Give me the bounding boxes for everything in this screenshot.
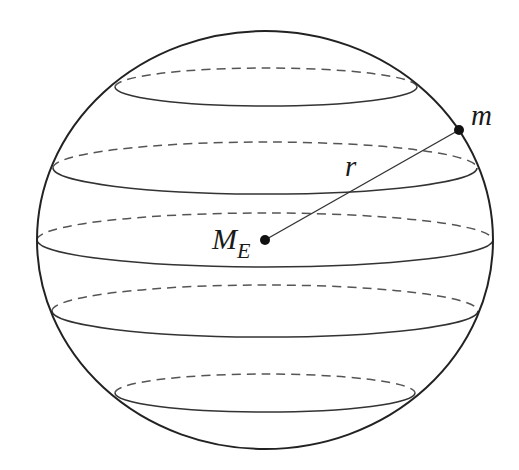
latitude-2-back-dashed: [53, 142, 477, 168]
earth-mass-symbol: M: [211, 222, 239, 255]
latitude-4-front-solid: [52, 311, 478, 337]
mass-point: [454, 125, 464, 135]
radius-label: r: [345, 150, 357, 182]
earth-mass-label: ME: [211, 222, 251, 263]
latitude-5-back-dashed: [115, 374, 415, 393]
gravity-sphere-diagram: ME m r: [0, 0, 519, 470]
latitude-1-back-dashed: [115, 68, 417, 87]
earth-center-point: [260, 235, 270, 245]
mass-label: m: [471, 99, 492, 131]
latitude-2-front-solid: [53, 168, 477, 194]
latitude-5-front-solid: [115, 393, 415, 412]
earth-mass-subscript: E: [236, 238, 251, 263]
latitude-1-front-solid: [115, 87, 417, 106]
latitude-4-back-dashed: [52, 285, 478, 311]
